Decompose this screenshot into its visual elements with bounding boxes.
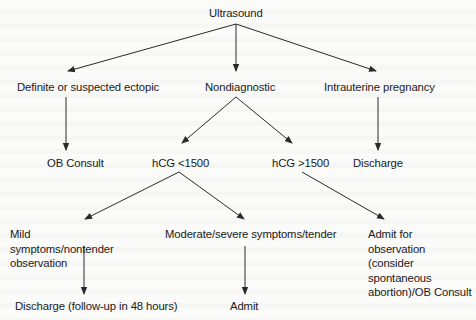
node-discharge: Discharge <box>353 156 403 171</box>
node-mild-symptoms: Mild symptoms/nontender observation <box>10 227 136 271</box>
node-discharge-followup: Discharge (follow-up in 48 hours) <box>15 299 177 314</box>
node-admit: Admit <box>230 299 258 314</box>
edge-ultrasound-ectopic <box>68 24 236 71</box>
edge-ultrasound-intrauterine <box>236 24 376 71</box>
edge-nondiagnostic-hcghigh <box>236 97 292 143</box>
edge-hcglow-mild <box>85 172 179 219</box>
edge-nondiagnostic-hcglow <box>182 97 236 143</box>
node-intrauterine-pregnancy: Intrauterine pregnancy <box>324 80 435 95</box>
node-moderate-severe-symptoms: Moderate/severe symptoms/tender <box>165 227 336 242</box>
node-nondiagnostic: Nondiagnostic <box>205 80 275 95</box>
node-hcg-greater-1500: hCG >1500 <box>272 156 329 171</box>
edge-hcghigh-admitobservation <box>302 172 384 219</box>
node-admit-for-observation: Admit for observation (consider spontane… <box>368 227 472 300</box>
node-ultrasound: Ultrasound <box>209 6 263 21</box>
node-ob-consult: OB Consult <box>47 156 104 171</box>
edge-hcglow-moderate <box>179 172 244 219</box>
flowchart-canvas: Ultrasound Definite or suspected ectopic… <box>0 0 476 320</box>
node-definite-or-suspected-ectopic: Definite or suspected ectopic <box>17 80 159 95</box>
node-hcg-less-1500: hCG <1500 <box>152 156 209 171</box>
